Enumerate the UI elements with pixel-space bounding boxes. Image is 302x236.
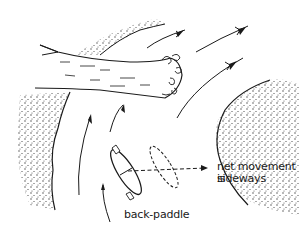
sideways-arrowhead — [201, 165, 208, 171]
river-diagram — [0, 0, 302, 236]
kayak — [105, 145, 146, 200]
paddle-blade-bottom — [126, 192, 134, 200]
left-bank — [18, 92, 71, 210]
upper-bank — [75, 20, 165, 56]
back-paddle-label: back-paddle — [124, 209, 189, 221]
right-bank — [215, 80, 300, 215]
fallen-tree — [35, 45, 182, 98]
sideways-arrow — [128, 168, 206, 171]
net-movement-label-line2: sideways — [217, 173, 266, 185]
ghost-kayak — [145, 143, 182, 191]
diagram-canvas: net movement is sideways back-paddle — [0, 0, 302, 236]
